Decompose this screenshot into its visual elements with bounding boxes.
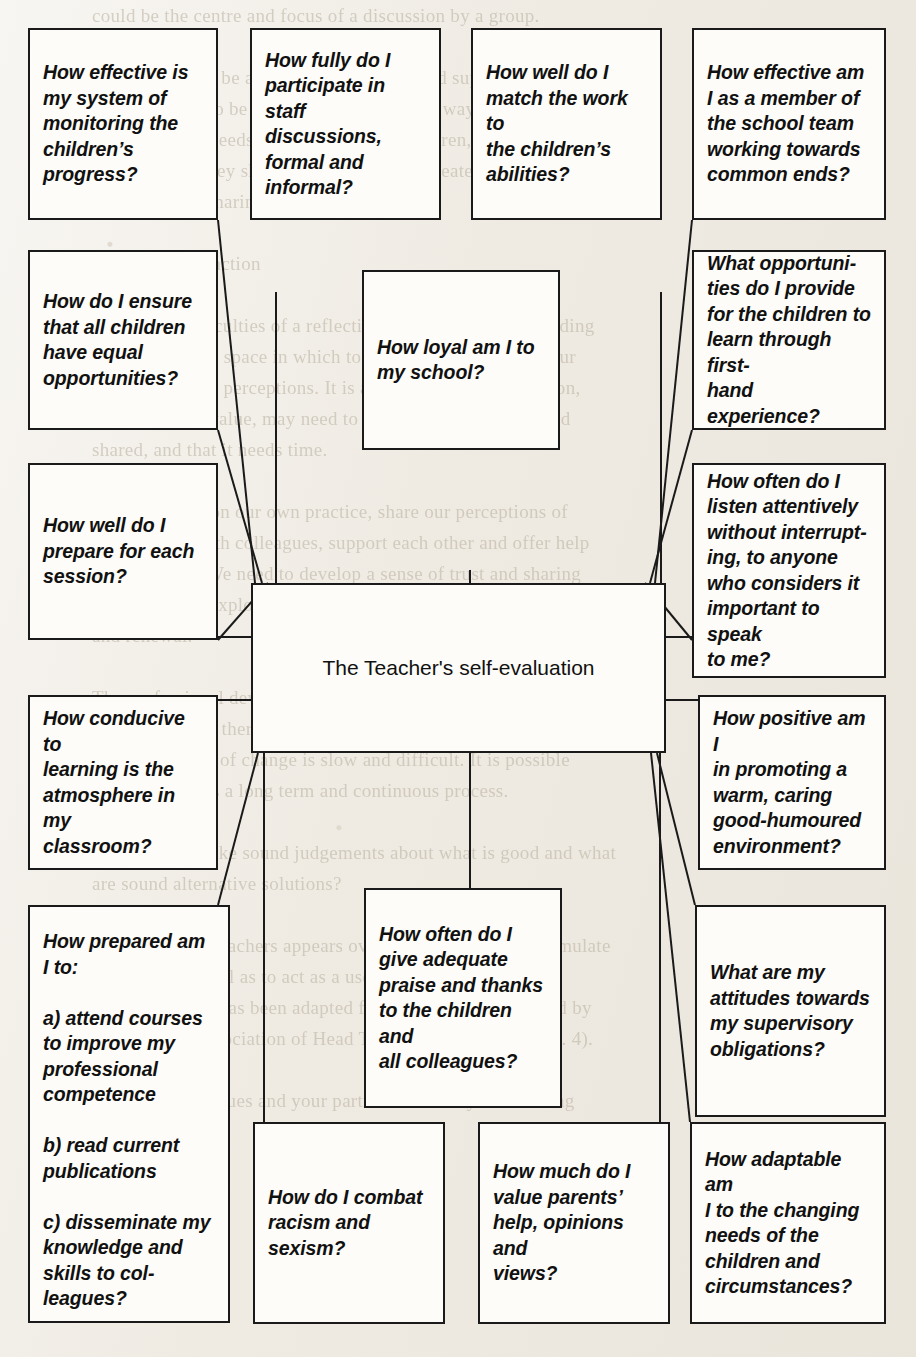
node-label: How loyal am I to my school? [377, 335, 535, 386]
node-label: What opportuni- ties do I provide for th… [707, 251, 871, 430]
node-equal-opportunities[interactable]: How do I ensure that all children have e… [28, 250, 218, 430]
node-monitoring[interactable]: How effective is my system of monitoring… [28, 28, 218, 220]
center-node-teacher-self-evaluation[interactable]: The Teacher's self-evaluation [251, 583, 666, 753]
node-label: How conducive to learning is the atmosph… [43, 706, 203, 859]
node-school-team[interactable]: How effective am I as a member of the sc… [692, 28, 886, 220]
node-supervisory-attitudes[interactable]: What are my attitudes towards my supervi… [695, 905, 886, 1117]
node-label: How prepared am I to: a) attend courses … [43, 929, 210, 1312]
node-racism-sexism[interactable]: How do I combat racism and sexism? [253, 1122, 445, 1324]
node-value-parents[interactable]: How much do I value parents’ help, opini… [478, 1122, 670, 1324]
node-label: How well do I match the work to the chil… [486, 60, 647, 188]
node-label: How effective am I as a member of the sc… [707, 60, 864, 188]
node-first-hand-experience[interactable]: What opportuni- ties do I provide for th… [692, 250, 886, 430]
node-label: How adaptable am I to the changing needs… [705, 1147, 871, 1300]
node-professional-development[interactable]: How prepared am I to: a) attend courses … [28, 905, 230, 1323]
node-warm-environment[interactable]: How positive am I in promoting a warm, c… [698, 695, 886, 870]
node-praise-thanks[interactable]: How often do I give adequate praise and … [364, 888, 562, 1108]
scanned-page: could be the centre and focus of a discu… [0, 0, 916, 1357]
node-prepare-session[interactable]: How well do I prepare for each session? [28, 463, 218, 640]
node-label: How often do I give adequate praise and … [379, 922, 547, 1075]
node-label: What are my attitudes towards my supervi… [710, 960, 870, 1062]
node-match-work[interactable]: How well do I match the work to the chil… [471, 28, 662, 220]
node-adaptable[interactable]: How adaptable am I to the changing needs… [690, 1122, 886, 1324]
node-label: How often do I listen attentively withou… [707, 469, 871, 673]
node-listen-attentively[interactable]: How often do I listen attentively withou… [692, 463, 886, 678]
node-label: How effective is my system of monitoring… [43, 60, 188, 188]
node-staff-discussions[interactable]: How fully do I participate in staff disc… [250, 28, 441, 220]
center-node-label: The Teacher's self-evaluation [322, 656, 594, 680]
node-label: How positive am I in promoting a warm, c… [713, 706, 871, 859]
node-label: How fully do I participate in staff disc… [265, 48, 426, 201]
node-label: How well do I prepare for each session? [43, 513, 194, 590]
node-label: How do I combat racism and sexism? [268, 1185, 423, 1262]
node-label: How much do I value parents’ help, opini… [493, 1159, 655, 1287]
node-classroom-atmosphere[interactable]: How conducive to learning is the atmosph… [28, 695, 218, 870]
node-loyal[interactable]: How loyal am I to my school? [362, 270, 560, 450]
node-label: How do I ensure that all children have e… [43, 289, 192, 391]
